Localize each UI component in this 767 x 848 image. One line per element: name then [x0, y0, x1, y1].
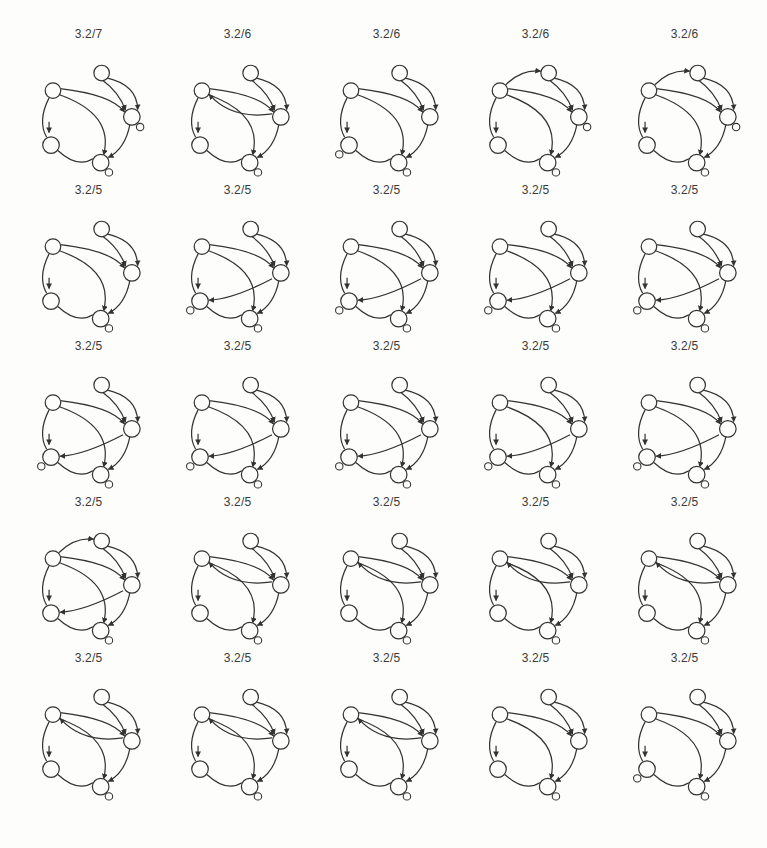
node-B [94, 65, 110, 81]
edge-dbl_in [252, 548, 275, 578]
edge-bottom [356, 774, 391, 786]
edge-bottom [58, 618, 93, 630]
satellite-D [634, 463, 641, 470]
satellite-E [105, 169, 112, 176]
satellite-E [254, 637, 261, 644]
edge-dbl_in [103, 704, 126, 734]
satellite-C [583, 123, 590, 130]
fitness-label: 3.2/5 [75, 494, 103, 510]
node-A [492, 551, 508, 567]
graph-cell: 3.2/5 [163, 338, 312, 494]
edge-diag [655, 250, 702, 310]
satellite-C [732, 123, 739, 130]
edge-left [341, 410, 348, 449]
graph-cell: 3.2/5 [610, 494, 759, 650]
fitness-label: 3.2/5 [224, 182, 252, 198]
edge-dbl_out [107, 78, 138, 110]
node-D [639, 761, 656, 778]
edge-left [192, 566, 199, 605]
edge-dbl_out [256, 702, 287, 734]
satellite-D [336, 151, 343, 158]
node-E [539, 154, 556, 171]
graph-cell: 3.2/5 [163, 494, 312, 650]
satellite-E [403, 481, 410, 488]
satellite-D [634, 307, 641, 314]
network-diagram [610, 356, 759, 492]
node-D [43, 761, 60, 778]
edge-diag [506, 250, 553, 310]
fitness-label: 3.2/5 [671, 338, 699, 354]
network-diagram [312, 668, 461, 804]
edge-ret_d [60, 435, 123, 456]
node-A [45, 707, 61, 723]
node-A [45, 551, 61, 567]
edge-right [704, 125, 725, 158]
edge-left [490, 722, 497, 761]
node-A [194, 239, 210, 255]
edge-bottom [654, 150, 689, 162]
node-B [392, 221, 408, 237]
node-E [539, 466, 556, 483]
graph-cell: 3.2/5 [461, 338, 610, 494]
figure-grid: 3.2/73.2/63.2/63.2/63.2/63.2/53.2/53.2/5… [14, 26, 767, 806]
edge-diag [655, 406, 702, 466]
edge-ret_d [507, 435, 570, 456]
satellite-E [105, 325, 112, 332]
edge-bottom [207, 462, 242, 474]
node-E [92, 310, 109, 327]
fitness-label: 3.2/5 [671, 650, 699, 666]
node-D [192, 761, 209, 778]
network-diagram [14, 668, 163, 804]
node-E [241, 778, 258, 795]
satellite-E [105, 481, 112, 488]
fitness-label: 3.2/5 [75, 650, 103, 666]
node-C [720, 733, 737, 750]
edge-diag [357, 406, 404, 466]
edge-diag [208, 250, 255, 310]
edge-bottom [207, 306, 242, 318]
satellite-D [634, 775, 641, 782]
edge-bottom [654, 306, 689, 318]
satellite-D [485, 307, 492, 314]
edge-diag [59, 562, 106, 622]
node-E [539, 622, 556, 639]
node-B [243, 65, 259, 81]
network-diagram [14, 44, 163, 180]
edge-ret_d [209, 435, 272, 456]
satellite-E [403, 793, 410, 800]
node-A [641, 83, 657, 99]
edge-left [639, 566, 646, 605]
node-E [390, 466, 407, 483]
network-diagram [163, 44, 312, 180]
edge-dbl_in [103, 236, 126, 266]
edge-bottom [58, 462, 93, 474]
node-E [241, 622, 258, 639]
fitness-label: 3.2/5 [75, 338, 103, 354]
node-C [720, 265, 737, 282]
graph-cell: 3.2/5 [312, 650, 461, 806]
edge-ret_d [656, 279, 719, 300]
graph-cell: 3.2/5 [14, 650, 163, 806]
node-D [192, 293, 209, 310]
node-D [490, 137, 507, 154]
edge-dbl_out [703, 546, 734, 578]
edge-right [108, 281, 129, 314]
edge-dbl_out [256, 390, 287, 422]
edge-left [43, 566, 50, 605]
node-A [194, 707, 210, 723]
network-diagram [461, 512, 610, 648]
node-B [243, 533, 259, 549]
edge-dbl_out [405, 390, 436, 422]
node-A [343, 551, 359, 567]
fitness-label: 3.2/6 [671, 26, 699, 42]
node-C [124, 265, 141, 282]
node-E [92, 778, 109, 795]
edge-diag [208, 718, 255, 778]
satellite-E [403, 169, 410, 176]
node-C [720, 421, 737, 438]
edge-right [257, 593, 278, 626]
edge-dbl_out [256, 546, 287, 578]
node-D [490, 449, 507, 466]
fitness-label: 3.2/6 [373, 26, 401, 42]
node-B [690, 221, 706, 237]
